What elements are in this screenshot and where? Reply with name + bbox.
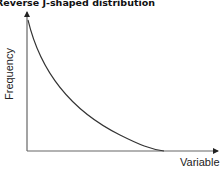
chart-plot: [0, 0, 220, 170]
x-axis-label: Variable: [180, 156, 220, 168]
distribution-curve: [28, 20, 164, 151]
y-axis-label: Frequency: [3, 48, 15, 100]
